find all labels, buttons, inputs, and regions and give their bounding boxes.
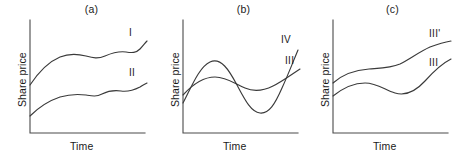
- panel-a-curve-II: [30, 83, 147, 116]
- panel-a-ylabel: Share price: [16, 52, 28, 107]
- panel-a-xlabel: Time: [70, 140, 93, 152]
- panel-c-label-III-prime: III': [429, 28, 440, 39]
- panel-c-label-III: III: [429, 57, 438, 68]
- panel-c: (c) III' III Share price Time: [303, 0, 458, 163]
- panel-a: (a) I II Share price Time: [0, 0, 155, 163]
- panel-b-xlabel: Time: [223, 140, 246, 152]
- panel-c-xlabel: Time: [373, 140, 396, 152]
- panel-a-axes: [30, 20, 145, 133]
- panel-a-label-II: II: [129, 67, 135, 78]
- panel-a-curve-I: [30, 41, 147, 85]
- panel-b-curve-III: [183, 69, 300, 95]
- panel-a-label-I: I: [129, 27, 132, 38]
- panel-b-ylabel: Share price: [169, 52, 181, 107]
- panel-b: (b) IV III Share price Time: [153, 0, 308, 163]
- panel-c-ylabel: Share price: [319, 52, 331, 107]
- panel-b-label-IV: IV: [281, 34, 291, 45]
- panel-b-label-III: III: [285, 55, 294, 66]
- share-price-figure: (a) I II Share price Time (b) IV III Sha…: [0, 0, 464, 163]
